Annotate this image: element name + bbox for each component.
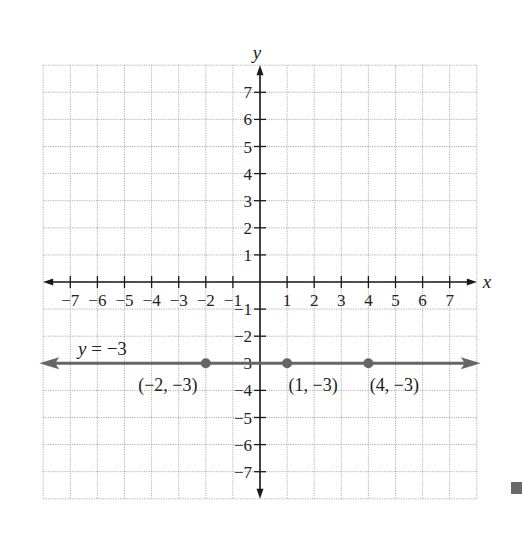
x-tick-label: −2 (197, 291, 215, 310)
x-tick-label: 4 (364, 291, 373, 310)
y-tick-label: 1 (244, 246, 253, 265)
axes (43, 65, 477, 499)
point-marker (282, 358, 292, 368)
x-tick-label: 7 (445, 291, 454, 310)
y-axis-label: y (251, 42, 262, 63)
end-of-example-square-icon (511, 482, 522, 494)
coordinate-plane: −7−6−5−4−3−2−112345677654321−1−2−3−4−5−6… (0, 0, 522, 537)
x-tick-label: −4 (143, 291, 162, 310)
y-tick-label: −1 (234, 300, 252, 319)
y-tick-label: −5 (234, 409, 252, 428)
x-tick-label: −5 (115, 291, 133, 310)
graph-figure: −7−6−5−4−3−2−112345677654321−1−2−3−4−5−6… (0, 0, 522, 537)
y-tick-label: 2 (244, 219, 253, 238)
x-axis-right-arrow-icon (467, 279, 477, 286)
y-axis-down-arrow-icon (257, 489, 264, 499)
y-tick-label: 5 (244, 138, 253, 157)
x-tick-label: 3 (337, 291, 346, 310)
x-tick-label: 6 (418, 291, 427, 310)
x-tick-label: −6 (88, 291, 106, 310)
y-tick-label: 4 (244, 165, 253, 184)
x-tick-label: 5 (391, 291, 400, 310)
point-label: (1, −3) (289, 375, 338, 396)
x-axis-label: x (482, 271, 492, 292)
x-tick-label: −7 (61, 291, 80, 310)
y-axis-up-arrow-icon (257, 65, 264, 75)
y-tick-label: 7 (244, 83, 253, 102)
line-equation-label: y = −3 (76, 338, 127, 359)
point-marker (201, 358, 211, 368)
y-tick-label: −6 (234, 436, 252, 455)
x-tick-label: −3 (170, 291, 188, 310)
point-label: (−2, −3) (138, 375, 197, 396)
point-label: (4, −3) (370, 375, 419, 396)
y-tick-label: −2 (234, 327, 252, 346)
y-tick-label: −4 (234, 381, 253, 400)
x-tick-label: 2 (310, 291, 319, 310)
x-tick-label: 1 (283, 291, 292, 310)
y-tick-label: −7 (234, 463, 253, 482)
y-tick-label: 6 (244, 110, 253, 129)
x-axis-left-arrow-icon (43, 279, 53, 286)
y-tick-label: 3 (244, 192, 253, 211)
point-marker (363, 358, 373, 368)
